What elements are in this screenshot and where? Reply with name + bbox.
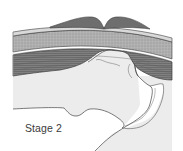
cap-right — [104, 17, 150, 29]
cap-left — [50, 17, 104, 29]
stage-label: Stage 2 — [25, 122, 62, 134]
bone-lower-left — [13, 76, 140, 124]
anatomical-diagram: Stage 2 — [0, 0, 183, 151]
